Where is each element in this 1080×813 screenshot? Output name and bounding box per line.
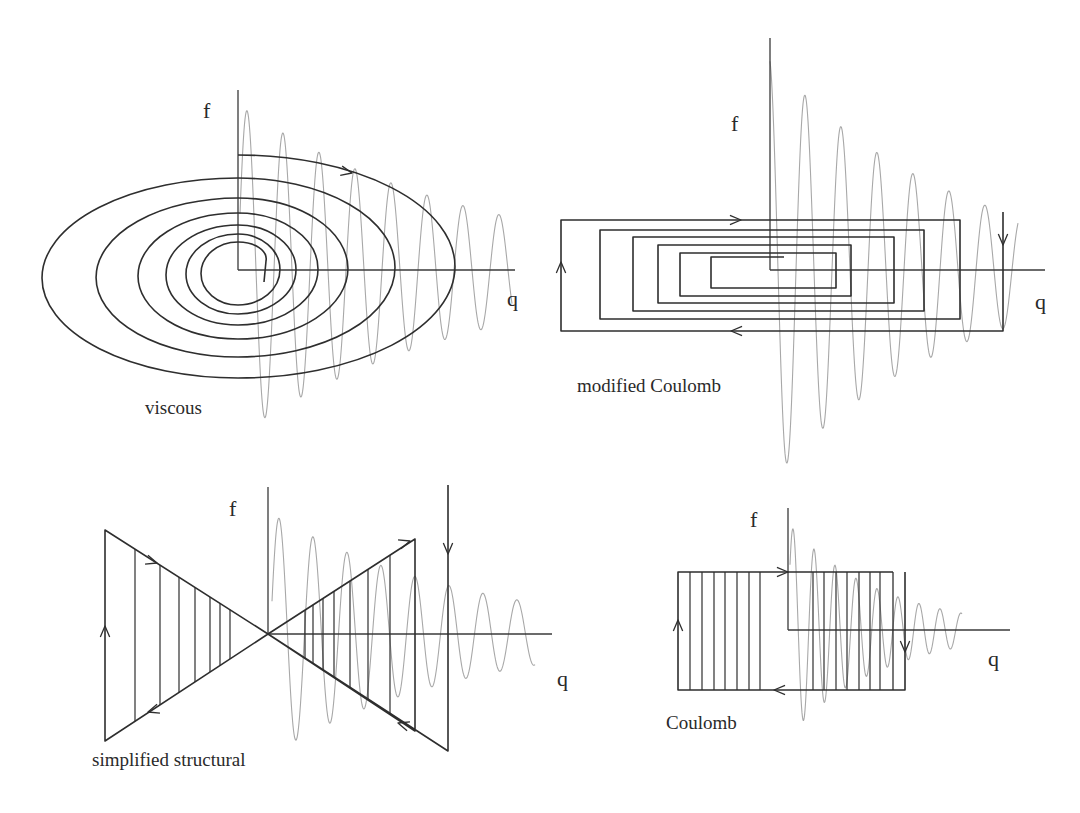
modified-coulomb-caption: modified Coulomb	[577, 376, 721, 395]
coulomb-q-axis-label: q	[988, 648, 999, 670]
coulomb-f-axis-label: f	[750, 509, 757, 531]
modified-coulomb-f-axis-label: f	[731, 113, 738, 135]
structural-f-axis-label: f	[229, 498, 236, 520]
viscous-q-axis-label: q	[507, 288, 518, 310]
modified-coulomb-q-axis-label: q	[1035, 291, 1046, 313]
viscous-caption: viscous	[145, 398, 202, 417]
decaying-response-wave	[272, 518, 535, 740]
coulomb-caption: Coulomb	[666, 713, 737, 732]
decaying-response-wave	[790, 529, 962, 721]
structural-caption: simplified structural	[92, 750, 246, 769]
panel-coulomb	[673, 508, 1010, 721]
viscous-f-axis-label: f	[203, 100, 210, 122]
coulomb-rectangle-trajectory	[678, 572, 905, 690]
direction-arrow-icon	[398, 540, 410, 549]
panel-viscous	[42, 90, 515, 418]
structural-q-axis-label: q	[557, 668, 568, 690]
panel-simplified-structural	[100, 485, 552, 751]
viscous-spiral-trajectory	[42, 155, 455, 378]
panel-modified-coulomb	[556, 38, 1045, 463]
